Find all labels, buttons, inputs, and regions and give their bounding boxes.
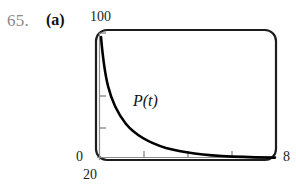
curve-label: P(t) (133, 93, 158, 109)
y-axis-max-label: 100 (90, 10, 111, 24)
plot-frame (96, 30, 276, 160)
figure-container: 65. (a) 100 0 20 8 (0, 0, 296, 188)
y-axis-min-label: 0 (76, 150, 83, 164)
problem-number: 65. (7, 12, 29, 29)
plot-area (96, 30, 276, 160)
decay-curve (101, 37, 275, 158)
plot-svg (90, 24, 290, 174)
problem-part-label: (a) (46, 12, 65, 28)
